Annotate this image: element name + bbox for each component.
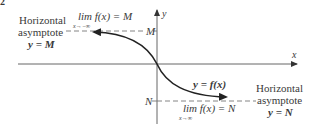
- upper-asymptote-equation: y = M: [28, 38, 54, 50]
- lower-asymptote-equation: y = N: [268, 106, 293, 118]
- upper-asymptote-label-1: Horizontal: [19, 14, 66, 26]
- upper-limit-expression: lim f(x) = M: [78, 10, 132, 22]
- lower-limit-subscript: x→∞: [179, 115, 192, 121]
- figure-number: 2: [0, 0, 5, 8]
- upper-limit-subscript: x→−∞: [73, 23, 90, 29]
- asymptote-diagram: 2 Horizontal asymptote y = M lim f(x) = …: [0, 0, 313, 128]
- upper-asymptote-label-2: asymptote: [18, 26, 63, 38]
- curve-label: y = f(x): [193, 78, 226, 90]
- lower-asymptote-label-1: Horizontal: [256, 82, 303, 94]
- lower-limit-expression: lim f(x) = N: [183, 102, 235, 114]
- x-axis-label: x: [292, 49, 296, 61]
- y-mark-m: M: [146, 25, 155, 37]
- y-mark-n: N: [145, 95, 152, 107]
- y-axis-label: y: [162, 8, 166, 20]
- lower-asymptote-label-2: asymptote: [257, 94, 302, 106]
